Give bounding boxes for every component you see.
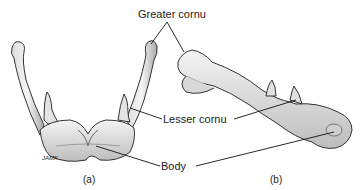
- label-body: Body: [161, 160, 186, 172]
- panel-label-a: (a): [83, 174, 95, 185]
- label-lesser-cornu: Lesser cornu: [163, 113, 227, 125]
- hyoid-anterior-view: [11, 41, 157, 162]
- panel-label-b: (b): [270, 174, 282, 185]
- label-greater-cornu: Greater cornu: [138, 8, 206, 20]
- artist-signature: JAMK: [42, 155, 58, 161]
